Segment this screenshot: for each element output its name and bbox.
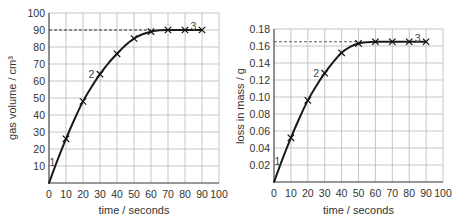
y-tick-label: 50 [33, 92, 45, 104]
y-tick-label: 80 [33, 41, 45, 53]
annotation-label: 2 [89, 68, 95, 80]
x-tick-label: 70 [386, 187, 398, 199]
y-tick-label: 0.18 [250, 23, 271, 35]
gas-volume-chart: 0102030405060708090100102030405060708090… [6, 7, 228, 217]
y-tick-label: 70 [33, 58, 45, 70]
x-tick-label: 30 [319, 187, 331, 199]
y-tick-label: 0.14 [250, 57, 271, 69]
x-tick-label: 20 [77, 188, 89, 200]
x-tick-label: 10 [60, 188, 72, 200]
annotation-label: 1 [49, 156, 55, 168]
x-tick-label: 100 [434, 187, 452, 199]
x-tick-label: 90 [420, 187, 432, 199]
x-tick-label: 40 [111, 188, 123, 200]
y-tick-label: 40 [33, 109, 45, 121]
x-tick-label: 10 [285, 187, 297, 199]
x-tick-label: 20 [302, 187, 314, 199]
y-tick-label: 0.06 [250, 125, 271, 137]
y-tick-label: 0.04 [250, 142, 271, 154]
x-tick-label: 70 [162, 188, 174, 200]
x-axis-label: time / seconds [99, 204, 170, 216]
y-axis-label: gas volume / cm³ [6, 56, 18, 140]
x-tick-label: 60 [370, 187, 382, 199]
x-tick-label: 80 [179, 188, 191, 200]
annotation-label: 1 [274, 155, 280, 167]
y-axis-label: loss in mass / g [234, 68, 246, 144]
y-tick-label: 0.02 [250, 159, 271, 171]
x-tick-label: 90 [196, 188, 208, 200]
x-tick-label: 30 [94, 188, 106, 200]
annotation-label: 2 [313, 67, 319, 79]
y-tick-label: 10 [33, 160, 45, 172]
grid [274, 29, 443, 182]
x-axis-label: time / seconds [323, 204, 394, 216]
x-tick-label: 60 [145, 188, 157, 200]
x-tick-label: 40 [336, 187, 348, 199]
y-tick-label: 0.16 [250, 40, 271, 52]
annotation-label: 3 [191, 20, 197, 32]
x-tick-label: 100 [210, 188, 228, 200]
x-tick-label: 0 [46, 188, 52, 200]
x-tick-label: 50 [353, 187, 365, 199]
figure: 0102030405060708090100102030405060708090… [0, 0, 471, 224]
mass-loss-chart: 01020304050607080901000.020.040.060.080.… [234, 23, 452, 217]
y-tick-label: 30 [33, 126, 45, 138]
y-tick-label: 60 [33, 75, 45, 87]
y-tick-label: 20 [33, 143, 45, 155]
x-tick-label: 50 [128, 188, 140, 200]
series-curve [49, 30, 202, 183]
y-tick-label: 0.10 [250, 91, 271, 103]
y-tick-label: 90 [33, 24, 45, 36]
x-tick-label: 80 [403, 187, 415, 199]
y-tick-label: 0.08 [250, 108, 271, 120]
annotation-label: 3 [415, 32, 421, 44]
y-tick-label: 0.12 [250, 74, 271, 86]
x-tick-label: 0 [271, 187, 277, 199]
y-tick-label: 100 [27, 7, 45, 19]
